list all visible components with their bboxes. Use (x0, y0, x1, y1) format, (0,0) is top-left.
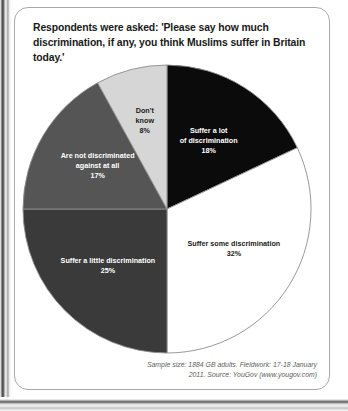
page-edge-artifact-left (0, 0, 11, 411)
page-edge-artifact-bottom (0, 397, 348, 411)
pie-slice-label-line: of discrimination (180, 136, 238, 145)
pie-chart: Suffer a lotof discrimination18%Suffer s… (22, 63, 324, 355)
chart-source-note: Sample size: 1884 GB adults. Fieldwork: … (135, 360, 317, 380)
pie-slice-group (23, 65, 311, 353)
page-title: Respondents were asked: 'Please say how … (33, 20, 317, 65)
pie-slice-label-line: Are not discriminated (61, 151, 135, 160)
pie-slice-label-line: Suffer a little discrimination (61, 256, 156, 265)
pie-chart-container: Suffer a lotof discrimination18%Suffer s… (22, 63, 324, 355)
pie-slice-label-line: 18% (201, 146, 216, 155)
pie-slice-label-line: Don't (136, 106, 155, 115)
pie-slice-label-line: against at all (76, 161, 120, 170)
pie-slice-label-line: know (136, 116, 155, 125)
pie-slice-label-line: 17% (90, 171, 105, 180)
pie-slice-label-line: Suffer some discrimination (188, 239, 281, 248)
chart-card: Respondents were asked: 'Please say how … (14, 7, 330, 390)
pie-slice-label-line: 8% (140, 126, 151, 135)
pie-slice-label-line: 25% (101, 266, 116, 275)
pie-slice[interactable] (23, 209, 167, 353)
pie-slice-label-line: Suffer a lot (190, 126, 228, 135)
pie-slice-label-line: 32% (227, 249, 242, 258)
